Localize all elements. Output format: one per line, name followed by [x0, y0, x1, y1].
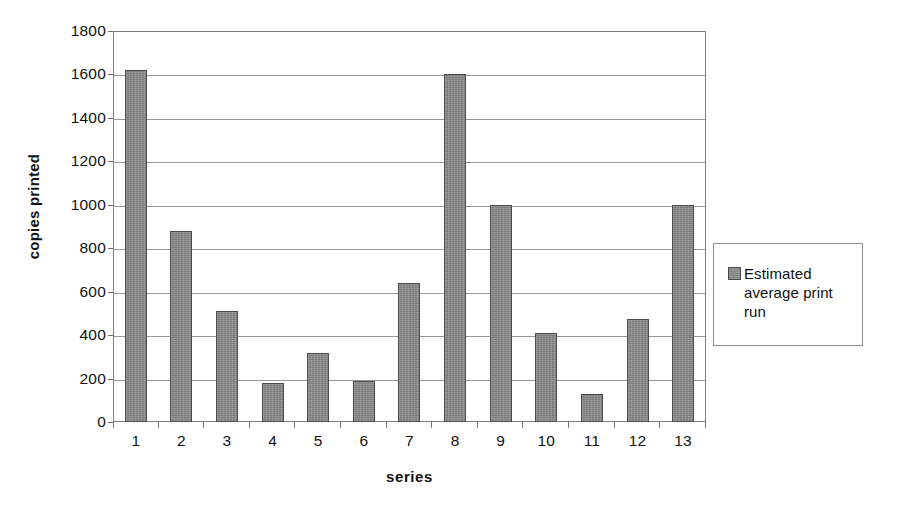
bar-slot: [295, 31, 341, 422]
bar[interactable]: [535, 333, 557, 422]
y-axis-tick-label: 1800: [58, 22, 106, 40]
legend-entry-label: Estimated average print run: [744, 264, 854, 321]
x-axis-tick-mark: [113, 422, 159, 429]
x-axis-tick-label: 13: [660, 432, 706, 456]
legend: Estimated average print run: [713, 243, 863, 346]
x-axis-tick-mark: [660, 422, 706, 429]
bar[interactable]: [398, 283, 420, 422]
bar[interactable]: [262, 383, 284, 422]
x-axis-tick-mark: [250, 422, 296, 429]
x-axis-tick-label: 10: [523, 432, 569, 456]
x-axis-tick-label: 8: [432, 432, 478, 456]
bar-slot: [204, 31, 250, 422]
y-axis-tick-label: 400: [58, 326, 106, 344]
x-axis-tick-mark: [523, 422, 569, 429]
bars-container: [113, 31, 706, 422]
bar-slot: [387, 31, 433, 422]
bar[interactable]: [490, 205, 512, 422]
x-axis-tick-mark: [341, 422, 387, 429]
x-axis-tick-label: 6: [341, 432, 387, 456]
bar-slot: [478, 31, 524, 422]
x-axis-tick-label: 11: [569, 432, 615, 456]
bar-slot: [569, 31, 615, 422]
y-axis-tick-labels: 020040060080010001200140016001800: [56, 0, 106, 511]
x-axis-tick-label: 7: [387, 432, 433, 456]
y-axis-tick-label: 0: [58, 413, 106, 431]
x-axis-tick-label: 4: [250, 432, 296, 456]
y-axis-tick-label: 1200: [58, 152, 106, 170]
x-axis-tick-mark: [478, 422, 524, 429]
y-axis-title: copies printed: [25, 112, 42, 302]
x-axis-tick-marks: [113, 422, 706, 429]
x-axis-tick-label: 3: [204, 432, 250, 456]
bar[interactable]: [307, 353, 329, 423]
bar[interactable]: [672, 205, 694, 422]
legend-swatch-icon: [728, 267, 741, 280]
bar-chart-figure: copies printed 0200400600800100012001400…: [0, 0, 903, 511]
y-axis-tick-label: 1400: [58, 109, 106, 127]
x-axis-tick-mark: [387, 422, 433, 429]
x-axis-tick-label: 12: [615, 432, 661, 456]
x-axis-tick-label: 9: [478, 432, 524, 456]
bar-slot: [250, 31, 296, 422]
bar-slot: [341, 31, 387, 422]
bar[interactable]: [216, 311, 238, 422]
x-axis-tick-label: 2: [159, 432, 205, 456]
y-axis-tick-label: 200: [58, 370, 106, 388]
x-axis-tick-mark: [204, 422, 250, 429]
y-axis-tick-label: 1600: [58, 65, 106, 83]
x-axis-tick-label: 1: [113, 432, 159, 456]
x-axis-tick-labels: 12345678910111213: [113, 432, 706, 456]
bar[interactable]: [581, 394, 603, 422]
x-axis-tick-label: 5: [295, 432, 341, 456]
bar-slot: [113, 31, 159, 422]
bar[interactable]: [444, 74, 466, 422]
bar[interactable]: [353, 381, 375, 422]
x-axis-title: series: [113, 468, 706, 485]
bar-slot: [432, 31, 478, 422]
bar[interactable]: [125, 70, 147, 422]
y-axis-tick-label: 600: [58, 283, 106, 301]
y-axis-tick-label: 1000: [58, 196, 106, 214]
x-axis-tick-mark: [569, 422, 615, 429]
bar-slot: [615, 31, 661, 422]
x-axis-tick-mark: [159, 422, 205, 429]
bar[interactable]: [170, 231, 192, 422]
x-axis-tick-mark: [615, 422, 661, 429]
legend-entry: Estimated average print run: [728, 264, 854, 321]
y-axis-tick-label: 800: [58, 239, 106, 257]
x-axis-tick-mark: [295, 422, 341, 429]
bar-slot: [159, 31, 205, 422]
bar-slot: [660, 31, 706, 422]
bar[interactable]: [627, 319, 649, 422]
x-axis-tick-mark: [432, 422, 478, 429]
bar-slot: [523, 31, 569, 422]
